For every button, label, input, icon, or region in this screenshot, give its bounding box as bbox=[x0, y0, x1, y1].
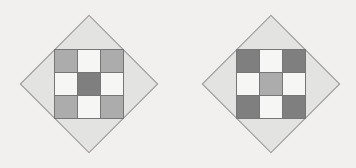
grid-cell-medium bbox=[101, 96, 123, 118]
grid-cell-dark bbox=[283, 96, 305, 118]
grid-cell-medium bbox=[260, 73, 282, 95]
grid-cell-light bbox=[101, 73, 123, 95]
grid-cell-light bbox=[283, 73, 305, 95]
grid-cell-medium bbox=[101, 50, 123, 72]
grid-cell-dark bbox=[78, 73, 100, 95]
grid-cell-light bbox=[78, 96, 100, 118]
grid-cell-dark bbox=[237, 96, 259, 118]
grid-cell-medium bbox=[55, 50, 77, 72]
grid-cell-dark bbox=[283, 50, 305, 72]
grid-cell-light bbox=[78, 50, 100, 72]
grid-cell-light bbox=[55, 73, 77, 95]
grid-cell-medium bbox=[55, 96, 77, 118]
grid-cell-dark bbox=[237, 50, 259, 72]
grid-cell-light bbox=[237, 73, 259, 95]
grid-cell-light bbox=[260, 50, 282, 72]
right-checkerboard-grid bbox=[236, 49, 306, 119]
left-checkerboard-grid bbox=[54, 49, 124, 119]
grid-cell-light bbox=[260, 96, 282, 118]
figure-canvas bbox=[0, 0, 356, 168]
